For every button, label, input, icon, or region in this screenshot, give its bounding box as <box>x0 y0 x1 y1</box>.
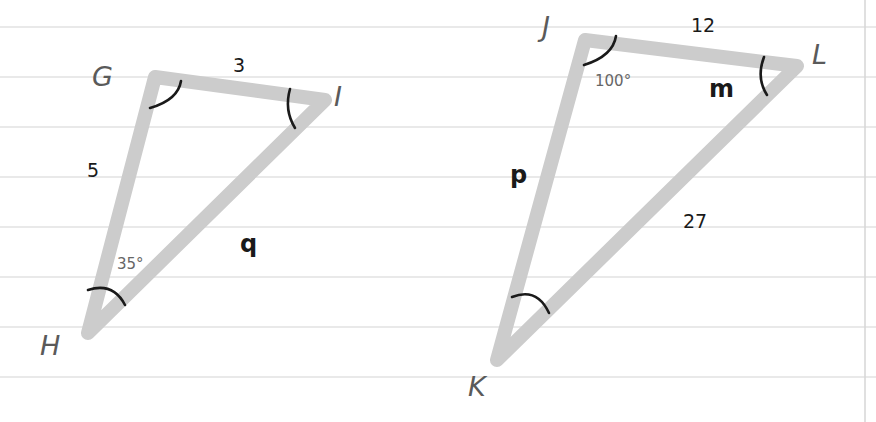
vertex-label-i: I <box>334 81 342 112</box>
angle-label-h: 35° <box>117 255 144 273</box>
angle-label-j: 100° <box>595 72 631 90</box>
side-label-jl: 12 <box>691 14 715 36</box>
triangle-jkl-outline <box>497 40 797 360</box>
side-label-kl: 27 <box>683 210 707 232</box>
side-label-gi: 3 <box>233 54 245 76</box>
vertex-label-k: K <box>468 371 488 402</box>
triangle-ghi: G I H 3 5 q 35° <box>40 54 342 361</box>
vertex-label-h: H <box>40 330 60 361</box>
similar-triangles-diagram: G I H 3 5 q 35° J L K 12 p 27 100° m <box>0 0 876 422</box>
vertex-label-l: L <box>812 39 827 70</box>
angle-label-l: m <box>709 75 734 103</box>
ruled-lines <box>0 27 876 377</box>
side-label-jk: p <box>510 161 527 189</box>
triangle-jkl: J L K 12 p 27 100° m <box>468 11 827 402</box>
side-label-gh: 5 <box>87 159 99 181</box>
side-label-hi: q <box>240 230 257 258</box>
vertex-label-g: G <box>92 61 113 92</box>
